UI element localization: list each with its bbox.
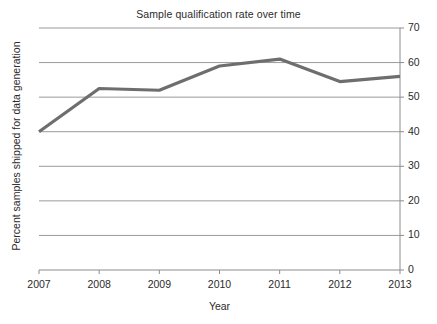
x-tick-label: 2013 (377, 278, 423, 290)
y-tick-label: 70 (408, 21, 436, 33)
x-tick-marks (39, 270, 400, 274)
x-tick-label: 2008 (76, 278, 122, 290)
y-tick-label: 10 (408, 228, 436, 240)
y-tick-marks (400, 28, 404, 270)
plot-area (0, 0, 437, 324)
y-tick-label: 0 (408, 263, 436, 275)
y-tick-label: 50 (408, 90, 436, 102)
x-tick-label: 2010 (197, 278, 243, 290)
x-tick-label: 2007 (16, 278, 62, 290)
y-tick-label: 40 (408, 125, 436, 137)
y-tick-label: 20 (408, 194, 436, 206)
x-tick-label: 2009 (136, 278, 182, 290)
y-tick-label: 60 (408, 56, 436, 68)
chart-container: Sample qualification rate over time Perc… (0, 0, 437, 324)
axis-lines (39, 28, 400, 270)
x-axis-title: Year (39, 300, 400, 312)
data-series-line (39, 59, 400, 132)
x-tick-label: 2011 (257, 278, 303, 290)
gridlines (39, 28, 400, 235)
x-tick-label: 2012 (317, 278, 363, 290)
y-tick-label: 30 (408, 159, 436, 171)
